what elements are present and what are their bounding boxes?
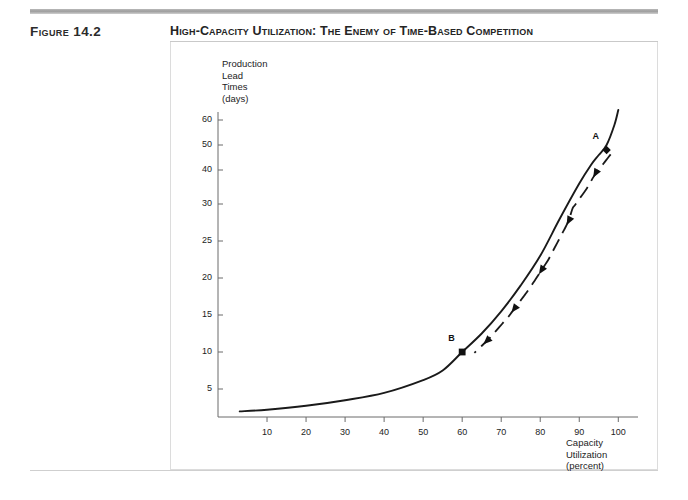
y-tick-label: 20 [186,272,212,282]
x-tick-label: 100 [604,427,632,437]
x-tick-label: 20 [292,427,320,437]
chart-axes [218,112,638,422]
figure-page: Figure 14.2 High-Capacity Utilization: T… [0,0,688,500]
x-tick-label: 10 [253,427,281,437]
improvement-arrowhead [563,215,574,227]
chart-curve [240,110,619,411]
y-tick-label: 15 [186,309,212,319]
point-label-b: B [448,333,455,343]
lead-time-curve [240,110,619,411]
improvement-arrowhead [590,168,601,180]
x-tick-label: 30 [331,427,359,437]
x-tick-label: 80 [526,427,554,437]
x-tick-label: 60 [448,427,476,437]
y-tick-label: 25 [186,235,212,245]
point-marker-a [602,146,610,154]
point-marker-b [459,349,466,356]
point-label-a: A [593,131,600,141]
x-tick-label: 40 [370,427,398,437]
y-tick-label: 5 [186,383,212,393]
y-tick-label: 60 [186,114,212,124]
x-tick-label: 90 [565,427,593,437]
x-tick-label: 50 [409,427,437,437]
x-tick-label: 70 [487,427,515,437]
chart-point-markers [459,146,611,356]
improvement-arrowhead [536,265,547,277]
y-tick-label: 10 [186,346,212,356]
y-tick-label: 30 [186,198,212,208]
y-tick-label: 40 [186,164,212,174]
y-tick-label: 50 [186,139,212,149]
chart-plot-area [0,0,688,500]
